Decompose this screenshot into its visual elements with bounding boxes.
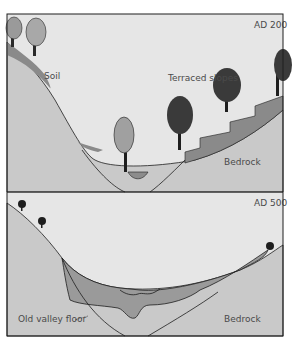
- valley-cross-section-diagram: AD 200 Soil Terraced slopes Bedrock AD 5…: [0, 0, 304, 356]
- era-label-top: AD 200: [254, 20, 287, 30]
- label-bedrock-bottom: Bedrock: [224, 314, 261, 324]
- panel-ad500: AD 500 Old valley floor Bedrock: [7, 193, 287, 336]
- era-label-bottom: AD 500: [254, 198, 287, 208]
- label-terraced-slopes: Terraced slopes: [167, 73, 238, 83]
- label-bedrock-top: Bedrock: [224, 157, 261, 167]
- label-old-valley-floor: Old valley floor: [18, 314, 86, 324]
- label-soil: Soil: [44, 71, 60, 81]
- panel-ad200: AD 200 Soil Terraced slopes Bedrock: [6, 14, 292, 192]
- tree-icon: [266, 242, 274, 250]
